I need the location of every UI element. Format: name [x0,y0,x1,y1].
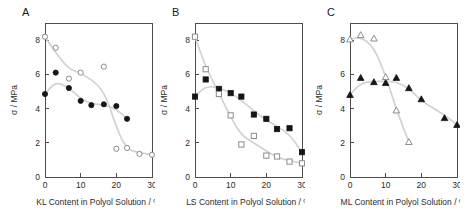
svg-text:0: 0 [193,180,198,190]
svg-text:20: 20 [262,180,272,190]
svg-text:σ / MPa: σ / MPa [314,85,324,115]
svg-text:4: 4 [185,104,190,114]
svg-text:20: 20 [112,180,122,190]
svg-text:0: 0 [185,172,190,182]
svg-text:2: 2 [340,138,345,148]
svg-text:30: 30 [452,180,460,190]
svg-text:8: 8 [340,35,345,45]
svg-text:4: 4 [35,104,40,114]
svg-text:KL Content in Polyol Solution: KL Content in Polyol Solution / % [36,197,155,207]
svg-text:30: 30 [297,180,305,190]
svg-text:0: 0 [340,172,345,182]
svg-text:6: 6 [185,69,190,79]
panel-b: B 010203002468LS Content in Polyol Solut… [150,0,305,214]
panel-a: A 010203002468KL Content in Polyol Solut… [0,0,155,214]
svg-text:10: 10 [226,180,236,190]
svg-text:σ / MPa: σ / MPa [9,85,19,115]
svg-text:10: 10 [76,180,86,190]
svg-text:8: 8 [35,35,40,45]
svg-text:ML Content in Polyol Solution: ML Content in Polyol Solution / % [341,197,460,207]
svg-text:8: 8 [185,35,190,45]
panel-c: C 010203002468ML Content in Polyol Solut… [305,0,460,214]
panel-c-plot: 010203002468ML Content in Polyol Solutio… [305,0,460,214]
svg-text:2: 2 [35,138,40,148]
svg-text:LS Content in Polyol Solution: LS Content in Polyol Solution / % [186,197,305,207]
svg-text:10: 10 [381,180,391,190]
svg-text:0: 0 [35,172,40,182]
svg-text:6: 6 [340,69,345,79]
figure-three-panel-scatter: A 010203002468KL Content in Polyol Solut… [0,0,466,214]
svg-text:σ / MPa: σ / MPa [159,85,169,115]
svg-text:0: 0 [348,180,353,190]
svg-text:6: 6 [35,69,40,79]
svg-text:4: 4 [340,104,345,114]
svg-text:0: 0 [43,180,48,190]
panel-a-plot: 010203002468KL Content in Polyol Solutio… [0,0,155,214]
svg-text:2: 2 [185,138,190,148]
svg-text:20: 20 [417,180,427,190]
panel-b-plot: 010203002468LS Content in Polyol Solutio… [150,0,305,214]
